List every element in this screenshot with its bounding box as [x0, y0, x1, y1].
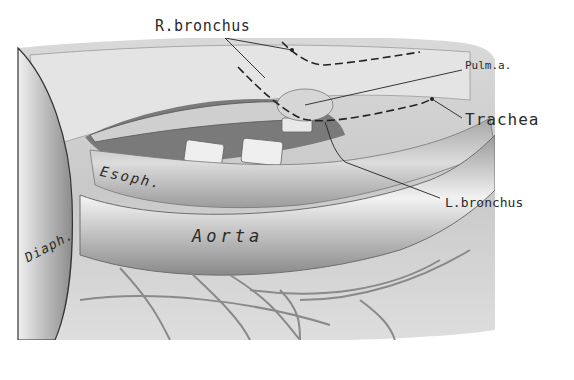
leader-dot-rbronchus — [290, 48, 294, 52]
label-l-bronchus: L.bronchus — [445, 195, 523, 210]
anatomical-illustration: R.bronchus Pulm.a. Trachea L.bronchus Es… — [0, 0, 574, 380]
label-pulmonary-artery: Pulm.a. — [465, 59, 511, 72]
illustration-drawing — [0, 0, 574, 380]
label-r-bronchus: R.bronchus — [155, 17, 250, 35]
label-trachea: Trachea — [465, 110, 539, 129]
leader-dot-trachea — [430, 97, 434, 101]
label-aorta: Aorta — [192, 226, 263, 246]
node-stump-2 — [241, 138, 283, 166]
